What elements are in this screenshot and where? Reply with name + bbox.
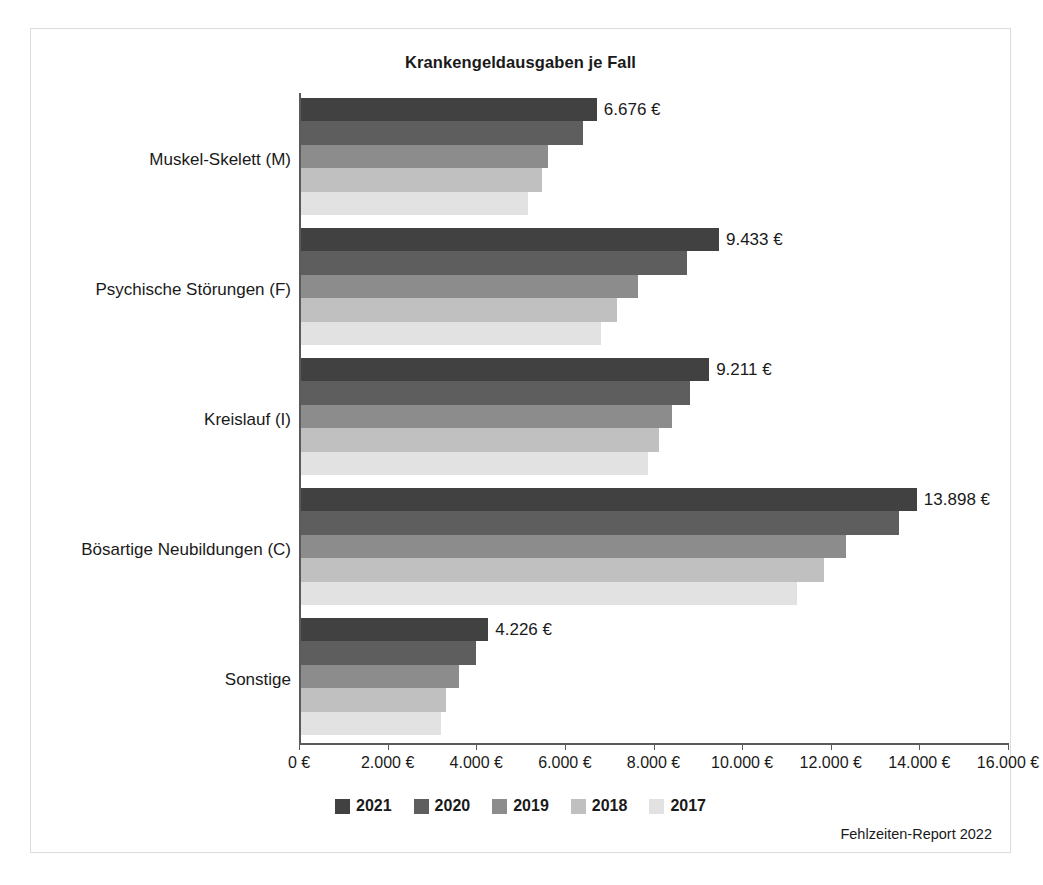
bar-value-label: 4.226 €: [488, 619, 552, 639]
bar-group: 6.676 €: [301, 93, 1008, 223]
bar-row: 4.226 €: [301, 618, 1008, 641]
x-axis-tick: [388, 743, 389, 750]
bar-group: 9.433 €: [301, 223, 1008, 353]
bar[interactable]: [301, 251, 687, 274]
bar-row: [301, 452, 1008, 475]
x-axis-tick: [654, 743, 655, 750]
bar-group: 4.226 €: [301, 613, 1008, 743]
bar[interactable]: [301, 641, 476, 664]
x-axis-tick-label: 12.000 €: [800, 754, 862, 772]
x-axis-tick: [476, 743, 477, 750]
bar-row: 6.676 €: [301, 98, 1008, 121]
bar-row: [301, 168, 1008, 191]
bar-value-label: 6.676 €: [597, 99, 661, 119]
bar-group-bars: 9.211 €: [301, 358, 1008, 475]
bar[interactable]: [301, 488, 917, 511]
bar[interactable]: [301, 381, 690, 404]
x-axis-tick: [565, 743, 566, 750]
bar-row: [301, 275, 1008, 298]
category-label: Sonstige: [41, 670, 291, 690]
legend-item[interactable]: 2018: [571, 797, 628, 815]
x-axis-tick: [831, 743, 832, 750]
bar-group: 13.898 €: [301, 483, 1008, 613]
legend-swatch: [335, 799, 350, 814]
x-axis-tick-label: 10.000 €: [711, 754, 773, 772]
bar-row: [301, 582, 1008, 605]
bar[interactable]: [301, 192, 528, 215]
bar[interactable]: [301, 582, 797, 605]
category-label: Kreislauf (I): [41, 410, 291, 430]
x-axis-tick-label: 16.000 €: [977, 754, 1039, 772]
x-axis-tick-label: 8.000 €: [627, 754, 680, 772]
bar-row: 13.898 €: [301, 488, 1008, 511]
legend-label: 2020: [435, 797, 471, 815]
legend-item[interactable]: 2021: [335, 797, 392, 815]
chart-title: Krankengeldausgaben je Fall: [31, 53, 1010, 72]
category-label: Psychische Störungen (F): [41, 280, 291, 300]
bar[interactable]: [301, 98, 597, 121]
bar[interactable]: [301, 618, 488, 641]
bar[interactable]: [301, 298, 617, 321]
x-axis-tick: [919, 743, 920, 750]
bar-row: [301, 121, 1008, 144]
bar-row: [301, 558, 1008, 581]
bar[interactable]: [301, 145, 548, 168]
plot-area: 6.676 €9.433 €9.211 €13.898 €4.226 €: [299, 93, 1008, 743]
legend-label: 2018: [592, 797, 628, 815]
x-axis-tick: [299, 743, 300, 750]
x-axis-tick: [742, 743, 743, 750]
bar[interactable]: [301, 275, 638, 298]
bar-row: [301, 192, 1008, 215]
legend-item[interactable]: 2019: [492, 797, 549, 815]
bar-row: [301, 712, 1008, 735]
bar-group-bars: 6.676 €: [301, 98, 1008, 215]
bar[interactable]: [301, 511, 899, 534]
bar-group-bars: 13.898 €: [301, 488, 1008, 605]
bar-group: 9.211 €: [301, 353, 1008, 483]
bar-row: [301, 145, 1008, 168]
legend-item[interactable]: 2017: [649, 797, 706, 815]
bar[interactable]: [301, 535, 846, 558]
x-axis-tick-label: 6.000 €: [538, 754, 591, 772]
bar-row: [301, 428, 1008, 451]
legend-item[interactable]: 2020: [414, 797, 471, 815]
chart-figure: Krankengeldausgaben je Fall Muskel-Skele…: [30, 28, 1011, 853]
x-axis: 0 €2.000 €4.000 €6.000 €8.000 €10.000 €1…: [299, 743, 1008, 789]
bar-group-bars: 4.226 €: [301, 618, 1008, 735]
bar[interactable]: [301, 452, 648, 475]
bar-value-label: 9.433 €: [719, 229, 783, 249]
bar[interactable]: [301, 405, 672, 428]
legend-swatch: [571, 799, 586, 814]
bar-value-label: 13.898 €: [917, 489, 990, 509]
x-axis-tick: [1008, 743, 1009, 750]
bar[interactable]: [301, 228, 719, 251]
bar-row: [301, 251, 1008, 274]
bar-row: [301, 688, 1008, 711]
bar[interactable]: [301, 322, 601, 345]
bar[interactable]: [301, 121, 583, 144]
bar-row: 9.211 €: [301, 358, 1008, 381]
bar[interactable]: [301, 688, 446, 711]
bar[interactable]: [301, 168, 542, 191]
legend-label: 2019: [513, 797, 549, 815]
category-label: Muskel-Skelett (M): [41, 150, 291, 170]
bar-value-label: 9.211 €: [709, 359, 771, 379]
category-label: Bösartige Neubildungen (C): [41, 540, 291, 560]
bar[interactable]: [301, 665, 459, 688]
bar-row: [301, 298, 1008, 321]
x-axis-tick-label: 14.000 €: [888, 754, 950, 772]
x-axis-tick-label: 0 €: [288, 754, 310, 772]
bar[interactable]: [301, 428, 659, 451]
legend-swatch: [649, 799, 664, 814]
bar-row: [301, 535, 1008, 558]
bar[interactable]: [301, 712, 441, 735]
legend-label: 2021: [356, 797, 392, 815]
bar[interactable]: [301, 558, 824, 581]
bar-row: [301, 641, 1008, 664]
chart-legend: 20212020201920182017: [31, 797, 1010, 815]
bar-row: 9.433 €: [301, 228, 1008, 251]
legend-swatch: [492, 799, 507, 814]
bar-group-bars: 9.433 €: [301, 228, 1008, 345]
bar-row: [301, 511, 1008, 534]
bar[interactable]: [301, 358, 709, 381]
